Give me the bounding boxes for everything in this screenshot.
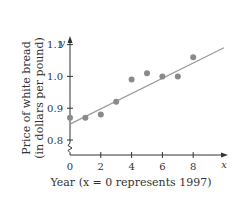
y-axis-label-line1: Price of white bread [20,41,33,154]
x-tick-label: 2 [98,161,104,172]
axis-break-icon [68,143,72,155]
scatter-chart: Price of white bread (in dollars per pou… [0,0,233,198]
x-tick-label: 6 [159,161,165,172]
y-axis-label: Price of white bread (in dollars per pou… [20,37,46,159]
y-tick-label: 1.1 [47,39,63,50]
x-tick-label: 8 [190,161,196,172]
x-tick-label: 0 [67,161,73,172]
y-tick-label: 0.9 [47,103,63,114]
data-point [175,73,181,79]
y-axis-arrow-icon [68,36,73,43]
y-tick-label: 1.0 [47,71,63,82]
data-points [67,54,196,120]
y-tick-label: 0.8 [47,135,63,146]
y-axis: y 0.80.91.01.1 [47,36,73,155]
data-point [113,99,119,105]
regression-line [70,48,224,124]
x-tick-label: 4 [128,161,134,172]
data-point [129,77,135,83]
x-axis-label: Year (x = 0 represents 1997) [50,176,212,189]
x-axis-letter: x [221,159,227,170]
data-point [159,73,165,79]
data-point [98,112,104,118]
data-point [82,115,88,121]
data-point [190,54,196,60]
y-axis-label-line2: (in dollars per pound) [33,37,46,159]
data-point [144,70,150,76]
data-point [67,115,73,121]
x-axis: x 02468 [67,152,228,172]
x-axis-arrow-icon [221,153,228,158]
